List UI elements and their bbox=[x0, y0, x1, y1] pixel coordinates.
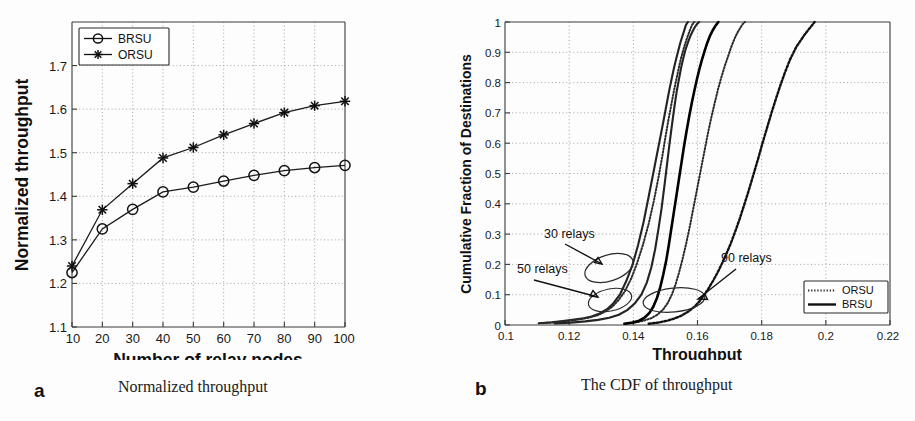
x-tick-label: 0.16 bbox=[686, 330, 708, 342]
chart-a-axes bbox=[72, 22, 345, 327]
panel-a-normalized-throughput: 1.1 1.2 1.3 1.4 1.5 1.6 1.7 10 20 30 40 … bbox=[0, 0, 460, 421]
y-tick-label: 1.1 bbox=[49, 320, 67, 335]
x-tick-label: 40 bbox=[156, 331, 170, 346]
chart-b-series-group bbox=[539, 22, 815, 324]
y-tick-label: 1.5 bbox=[49, 146, 67, 161]
x-tick-label: 90 bbox=[307, 331, 321, 346]
chart-b-x-axis-title: Throughput bbox=[652, 346, 742, 360]
y-tick-label: 0.8 bbox=[485, 77, 501, 89]
y-tick-label: 0.3 bbox=[485, 229, 501, 241]
x-tick-label: 10 bbox=[66, 331, 80, 346]
chart-b-svg: 0 0.1 0.2 0.3 0.4 0.5 0.6 0.7 0.8 0.9 1 … bbox=[455, 0, 915, 360]
y-tick-label: 1 bbox=[495, 17, 501, 29]
x-tick-label: 0.2 bbox=[818, 330, 834, 342]
panel-b-label: b bbox=[475, 378, 487, 400]
annotation-label: 50 relays bbox=[517, 262, 568, 276]
chart-b-y-axis-title: Cumulative Fraction of Destinations bbox=[458, 54, 474, 294]
y-tick-label: 0.4 bbox=[485, 198, 502, 210]
chart-a-legend[interactable]: BRSU ORSU bbox=[79, 28, 169, 65]
chart-b-highlights bbox=[581, 248, 706, 315]
x-tick-label: 0.14 bbox=[622, 330, 645, 342]
chart-a-x-ticklabels: 10 20 30 40 50 60 70 80 90 100 bbox=[66, 331, 355, 346]
series-line-brsu bbox=[72, 165, 345, 272]
y-tick-label: 1.3 bbox=[49, 233, 67, 248]
figure-container: 1.1 1.2 1.3 1.4 1.5 1.6 1.7 10 20 30 40 … bbox=[0, 0, 915, 421]
y-tick-label: 1.6 bbox=[49, 102, 67, 117]
data-point-marker-asterisk bbox=[340, 96, 350, 106]
x-tick-label: 0.18 bbox=[750, 330, 772, 342]
x-tick-label: 30 bbox=[125, 331, 139, 346]
x-tick-label: 50 bbox=[186, 331, 200, 346]
chart-b-y-ticklabels: 0 0.1 0.2 0.3 0.4 0.5 0.6 0.7 0.8 0.9 1 bbox=[485, 17, 502, 332]
cdf-curve-brsu-90-relays bbox=[624, 22, 718, 324]
x-tick-label: 60 bbox=[216, 331, 230, 346]
y-tick-label: 1.7 bbox=[49, 59, 67, 74]
y-tick-label: 1.2 bbox=[49, 276, 67, 291]
panel-b-cdf-throughput: 0 0.1 0.2 0.3 0.4 0.5 0.6 0.7 0.8 0.9 1 … bbox=[455, 0, 915, 421]
panel-a-caption: Normalized throughput bbox=[118, 378, 268, 396]
legend-label: ORSU bbox=[118, 48, 153, 62]
chart-a-svg: 1.1 1.2 1.3 1.4 1.5 1.6 1.7 10 20 30 40 … bbox=[0, 0, 460, 360]
data-point-marker-asterisk bbox=[127, 178, 137, 188]
cdf-curve-orsu-50-relays bbox=[625, 22, 745, 324]
y-tick-label: 0.7 bbox=[485, 107, 501, 119]
chart-a-y-axis-title: Normalized throughput bbox=[12, 79, 32, 272]
x-tick-label: 0.12 bbox=[558, 330, 580, 342]
chart-a-series-group bbox=[67, 96, 350, 278]
chart-b-x-ticklabels: 0.1 0.12 0.14 0.16 0.18 0.2 0.22 bbox=[498, 330, 899, 342]
x-tick-label: 0.22 bbox=[877, 330, 899, 342]
x-tick-label: 70 bbox=[247, 331, 261, 346]
y-tick-label: 0.1 bbox=[485, 289, 501, 301]
chart-a-x-axis-title: Number of relay nodes bbox=[113, 350, 303, 360]
y-tick-label: 0.6 bbox=[485, 138, 501, 150]
data-point-marker-asterisk bbox=[249, 118, 259, 128]
panel-b-caption: The CDF of throughput bbox=[581, 376, 733, 394]
x-tick-label: 80 bbox=[277, 331, 291, 346]
panel-a-label: a bbox=[34, 380, 45, 402]
y-tick-label: 0.2 bbox=[485, 259, 501, 271]
chart-a-grid bbox=[72, 22, 345, 327]
data-point-marker-asterisk bbox=[67, 261, 77, 271]
data-point-marker-asterisk bbox=[97, 205, 107, 215]
y-tick-label: 1.4 bbox=[49, 189, 67, 204]
data-point-marker-asterisk bbox=[188, 142, 198, 152]
legend-label: BRSU bbox=[842, 298, 873, 310]
annotation-label: 30 relays bbox=[544, 227, 595, 241]
annotation-label: 90 relays bbox=[721, 251, 772, 265]
x-tick-label: 20 bbox=[95, 331, 109, 346]
chart-b-legend[interactable]: ORSU BRSU bbox=[804, 281, 888, 313]
legend-label: BRSU bbox=[118, 32, 151, 46]
y-tick-label: 0.5 bbox=[485, 168, 501, 180]
data-point-marker-asterisk bbox=[309, 100, 319, 110]
data-point-marker-asterisk bbox=[279, 107, 289, 117]
data-point-marker-asterisk bbox=[218, 130, 228, 140]
chart-b-grid bbox=[505, 22, 890, 325]
legend-label: ORSU bbox=[842, 284, 874, 296]
x-tick-label: 0.1 bbox=[498, 330, 514, 342]
y-tick-label: 0.9 bbox=[485, 47, 501, 59]
x-tick-label: 100 bbox=[333, 331, 355, 346]
chart-a-y-ticklabels: 1.1 1.2 1.3 1.4 1.5 1.6 1.7 bbox=[49, 59, 67, 335]
data-point-marker-asterisk bbox=[158, 153, 168, 163]
